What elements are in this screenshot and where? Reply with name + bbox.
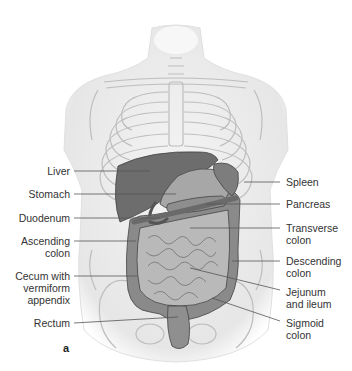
- label-text: Transverse: [286, 222, 338, 234]
- label-text: Spleen: [286, 176, 319, 188]
- label-text: colon: [286, 329, 324, 341]
- label-text: vermiform: [15, 282, 70, 294]
- label-text: colon: [286, 234, 338, 246]
- label-text: Stomach: [29, 188, 70, 200]
- label-text: and ileum: [286, 298, 332, 310]
- label-text: Rectum: [34, 317, 70, 329]
- label-text: Sigmoid: [286, 317, 324, 329]
- label-text: colon: [286, 267, 341, 279]
- label-text: Cecum with: [15, 270, 70, 282]
- label-spleen: Spleen: [286, 176, 319, 188]
- label-text: Ascending: [21, 235, 70, 247]
- rectum: [168, 306, 190, 349]
- label-pancreas: Pancreas: [286, 198, 330, 210]
- label-text: Descending: [286, 255, 341, 267]
- label-descending-colon: Descending colon: [286, 255, 341, 279]
- label-liver: Liver: [47, 165, 70, 177]
- panel-label: a: [63, 342, 69, 354]
- label-sigmoid-colon: Sigmoid colon: [286, 317, 324, 341]
- label-text: Liver: [47, 165, 70, 177]
- label-stomach: Stomach: [29, 188, 70, 200]
- label-text: appendix: [15, 294, 70, 306]
- anatomy-figure: Liver Stomach Duodenum Ascending colon C…: [0, 0, 352, 371]
- label-cecum: Cecum with vermiform appendix: [15, 270, 70, 306]
- label-text: Pancreas: [286, 198, 330, 210]
- label-ascending-colon: Ascending colon: [21, 235, 70, 259]
- label-duodenum: Duodenum: [19, 212, 70, 224]
- label-text: colon: [21, 247, 70, 259]
- label-jejunum-ileum: Jejunum and ileum: [286, 286, 332, 310]
- label-text: Duodenum: [19, 212, 70, 224]
- label-transverse-colon: Transverse colon: [286, 222, 338, 246]
- label-text: Jejunum: [286, 286, 332, 298]
- label-rectum: Rectum: [34, 317, 70, 329]
